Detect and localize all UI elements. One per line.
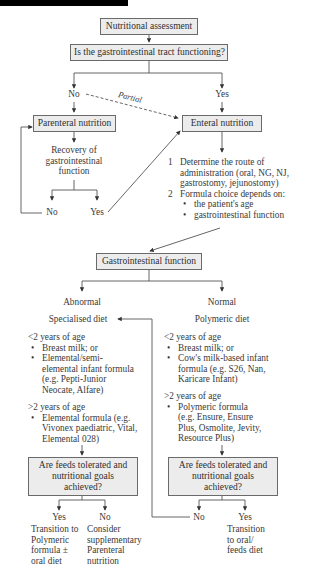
normal-over2: >2 years of age Polymeric formula (e.g. … (164, 391, 284, 444)
yes-label: Yes (210, 89, 234, 100)
abnormal-feeds-question-box: Are feeds tolerated and nutritional goal… (28, 457, 138, 496)
gi-function-box: Gastrointestinal function (96, 253, 202, 270)
age-heading: <2 years of age (28, 332, 146, 343)
step-number: 1 (168, 157, 173, 168)
abnormal-under2: <2 years of age Breast milk; or Elementa… (28, 332, 146, 396)
polymeric-diet-label: Polymeric diet (186, 314, 258, 325)
age-heading: >2 years of age (164, 391, 284, 402)
abnormal-no-outcome: Consider supplementary Parenteral nutrit… (87, 524, 147, 566)
step-number: 2 (168, 189, 173, 200)
bullet-item: the patient's age (180, 199, 296, 210)
abnormal-label: Abnormal (50, 297, 114, 308)
no-label: No (64, 89, 84, 100)
normal-yes-outcome: Transition to oral/ feeds diet (227, 524, 267, 556)
normal-feeds-question-box: Are feeds tolerated and nutritional goal… (168, 457, 278, 496)
recovery-text: Recovery of gastrointestinal function (40, 145, 108, 177)
normal-yes-label: Yes (234, 512, 256, 523)
enteral-nutrition-box: Enteral nutrition (182, 115, 262, 132)
abnormal-yes-label: Yes (48, 512, 70, 523)
age-heading: <2 years of age (164, 332, 294, 343)
abnormal-over2: >2 years of age Elemental formula (e.g. … (28, 402, 148, 444)
nutritional-assessment-box: Nutritional assessment (100, 18, 198, 35)
step-1: 1 Determine the route of administration … (168, 157, 296, 189)
recovery-no-label: No (42, 207, 62, 218)
step-2: 2 Formula choice depends on: the patient… (168, 189, 296, 221)
gi-tract-question-box: Is the gastrointestinal tract functionin… (70, 44, 228, 61)
bullet-item: Cow's milk-based infant formula (e.g. S2… (164, 353, 282, 385)
bullet-item: Polymeric formula (e.g. Ensure, Ensure P… (164, 402, 266, 444)
age-heading: >2 years of age (28, 402, 148, 413)
bullet-item: Breast milk; or (164, 343, 294, 354)
bullet-item: Breast milk; or (28, 343, 146, 354)
step-text: Determine the route of administration (o… (180, 157, 289, 188)
normal-under2: <2 years of age Breast milk; or Cow's mi… (164, 332, 294, 385)
normal-no-label: No (189, 512, 209, 523)
step-text: Formula choice depends on: (180, 189, 285, 199)
abnormal-yes-outcome: Transition to Polymeric formula ± oral d… (31, 524, 81, 566)
specialised-diet-label: Specialised diet (40, 314, 116, 325)
bullet-item: gastrointestinal function (180, 210, 296, 221)
bullet-item: Elemental formula (e.g. Vivonex paediatr… (28, 413, 142, 445)
bullet-item: Elemental/semi-elemental infant formula … (28, 353, 134, 395)
recovery-yes-label: Yes (86, 207, 108, 218)
abnormal-no-label: No (95, 512, 115, 523)
enteral-steps: 1 Determine the route of administration … (168, 157, 296, 221)
parenteral-nutrition-box: Parenteral nutrition (33, 115, 116, 132)
normal-label: Normal (196, 297, 248, 308)
